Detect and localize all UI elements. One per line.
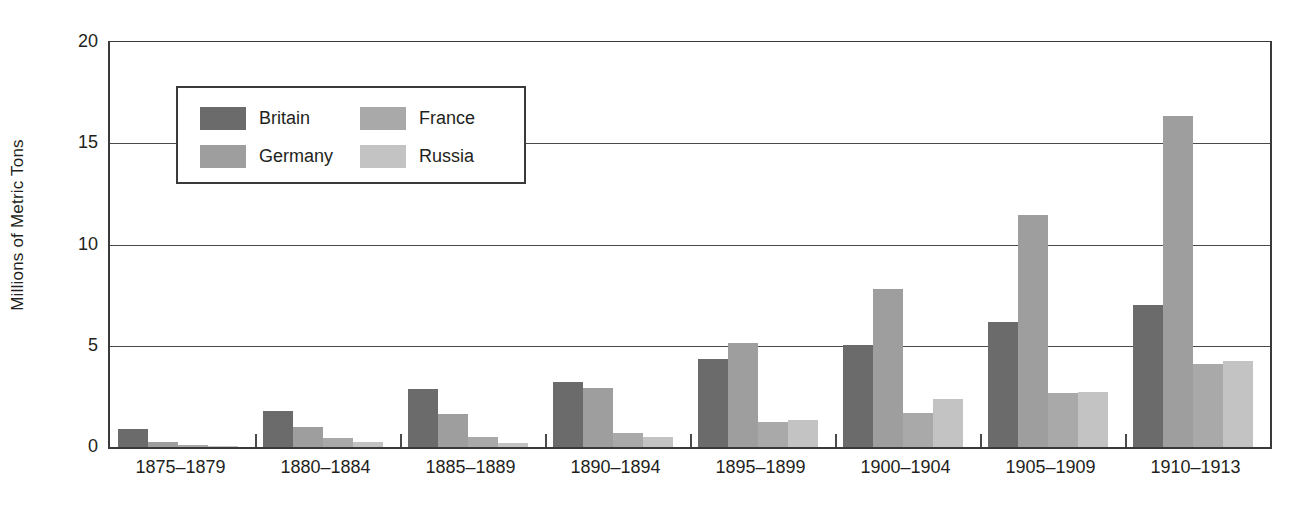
legend-label: France — [419, 108, 475, 129]
bar-russia — [1223, 361, 1253, 447]
bar-germany — [293, 427, 323, 447]
bar-group — [545, 42, 690, 447]
bar-britain — [988, 322, 1018, 447]
y-axis-title: Millions of Metric Tons — [0, 0, 36, 450]
bar-group — [690, 42, 835, 447]
legend-swatch-russia — [360, 145, 406, 168]
y-axis-tick-label: 5 — [52, 336, 98, 354]
legend-label: Britain — [259, 108, 310, 129]
bar-britain — [118, 429, 148, 447]
bar-france — [178, 445, 208, 447]
group-separator-tick — [255, 434, 257, 447]
bar-france — [1193, 364, 1223, 447]
legend: BritainFranceGermanyRussia — [176, 86, 526, 184]
y-axis-tick-labels: 05101520 — [40, 0, 98, 512]
x-axis-tick-label: 1890–1894 — [543, 455, 688, 479]
bar-britain — [698, 359, 728, 447]
bar-group — [835, 42, 980, 447]
bar-group — [1125, 42, 1270, 447]
x-axis-tick-label: 1905–1909 — [978, 455, 1123, 479]
bar-france — [468, 437, 498, 447]
bar-germany — [148, 442, 178, 447]
x-axis-tick-label: 1880–1884 — [253, 455, 398, 479]
bar-russia — [643, 437, 673, 447]
y-axis-title-text: Millions of Metric Tons — [8, 139, 28, 311]
bar-britain — [263, 411, 293, 447]
x-axis-tick-label: 1875–1879 — [108, 455, 253, 479]
bar-britain — [553, 382, 583, 447]
group-separator-tick — [400, 434, 402, 447]
bar-france — [1048, 393, 1078, 447]
bar-france — [903, 413, 933, 447]
bar-germany — [873, 289, 903, 447]
group-separator-tick — [835, 434, 837, 447]
bar-germany — [583, 388, 613, 447]
bar-germany — [438, 414, 468, 447]
steel-production-bar-chart: Millions of Metric Tons 05101520 1875–18… — [0, 0, 1306, 512]
legend-swatch-germany — [200, 145, 246, 168]
y-axis-tick-label: 0 — [52, 437, 98, 455]
legend-item-russia: Russia — [360, 137, 510, 175]
bar-germany — [1163, 116, 1193, 447]
bar-britain — [408, 389, 438, 447]
bar-russia — [933, 399, 963, 447]
bar-russia — [498, 443, 528, 447]
bar-russia — [1078, 392, 1108, 447]
x-axis-tick-label: 1900–1904 — [833, 455, 978, 479]
group-separator-tick — [690, 434, 692, 447]
bar-france — [613, 433, 643, 447]
group-separator-tick — [1125, 434, 1127, 447]
bar-germany — [1018, 215, 1048, 447]
bar-germany — [728, 343, 758, 447]
bar-russia — [788, 420, 818, 447]
x-axis-tick-labels: 1875–18791880–18841885–18891890–18941895… — [108, 455, 1268, 489]
legend-item-britain: Britain — [200, 99, 350, 137]
group-separator-tick — [545, 434, 547, 447]
x-axis-tick-label: 1910–1913 — [1123, 455, 1268, 479]
y-axis-tick-label: 20 — [52, 32, 98, 50]
bar-russia — [353, 442, 383, 447]
y-axis-tick-label: 10 — [52, 235, 98, 253]
bar-russia — [208, 446, 238, 447]
bar-group — [980, 42, 1125, 447]
group-separator-tick — [980, 434, 982, 447]
bar-britain — [1133, 305, 1163, 447]
legend-item-france: France — [360, 99, 510, 137]
bar-france — [323, 438, 353, 447]
legend-swatch-britain — [200, 107, 246, 130]
bar-britain — [843, 345, 873, 447]
legend-item-germany: Germany — [200, 137, 350, 175]
bar-france — [758, 422, 788, 447]
y-axis-tick-label: 15 — [52, 133, 98, 151]
x-axis-tick-label: 1895–1899 — [688, 455, 833, 479]
legend-label: Germany — [259, 146, 333, 167]
legend-swatch-france — [360, 107, 406, 130]
x-axis-tick-label: 1885–1889 — [398, 455, 543, 479]
legend-grid: BritainFranceGermanyRussia — [200, 99, 510, 175]
legend-label: Russia — [419, 146, 474, 167]
